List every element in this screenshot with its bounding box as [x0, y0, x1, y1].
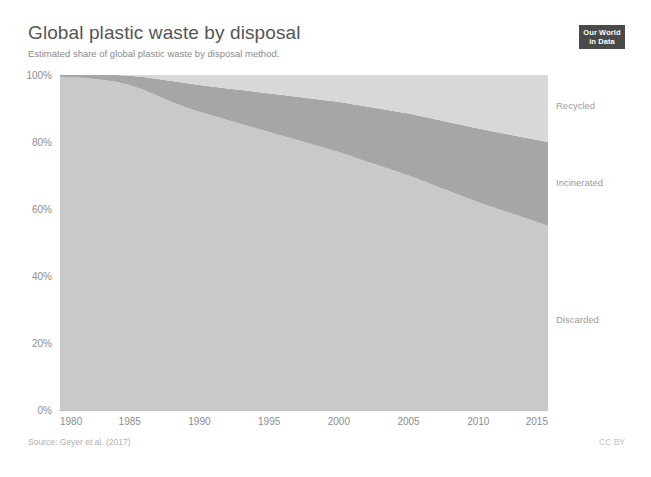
y-tick-label: 0% [38, 405, 53, 416]
x-tick-label: 2000 [328, 416, 351, 427]
area-series-group [60, 75, 548, 410]
chart-card: Global plastic waste by disposal Estimat… [0, 0, 651, 477]
x-tick-label: 2005 [397, 416, 420, 427]
series-label-recycled[interactable]: Recycled [556, 100, 595, 111]
y-tick-label: 100% [26, 70, 52, 81]
x-tick-label: 1990 [188, 416, 211, 427]
x-tick-label: 1980 [60, 416, 83, 427]
series-label-discarded[interactable]: Discarded [556, 314, 599, 325]
series-inline-labels: DiscardedIncineratedRecycled [556, 100, 603, 325]
series-label-incinerated[interactable]: Incinerated [556, 177, 603, 188]
x-tick-label: 2015 [526, 416, 549, 427]
license-note[interactable]: CC BY [599, 437, 625, 447]
chart-footer: Source: Geyer et al. (2017) CC BY [28, 437, 625, 449]
stacked-area-chart[interactable]: 19801985199019952000200520102015 0%20%40… [0, 0, 651, 477]
x-axis-tick-labels: 19801985199019952000200520102015 [60, 416, 548, 427]
x-tick-label: 1985 [119, 416, 142, 427]
source-note: Source: Geyer et al. (2017) [28, 437, 131, 447]
x-tick-label: 2010 [467, 416, 490, 427]
y-tick-label: 40% [32, 271, 52, 282]
x-tick-label: 1995 [258, 416, 281, 427]
y-tick-label: 80% [32, 137, 52, 148]
y-tick-label: 20% [32, 338, 52, 349]
y-axis-tick-labels: 0%20%40%60%80%100% [26, 70, 52, 416]
y-tick-label: 60% [32, 204, 52, 215]
